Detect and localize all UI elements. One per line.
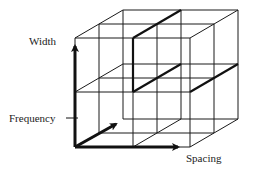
axes bbox=[75, 46, 178, 147]
parameter-cube-diagram: Width Frequency Spacing bbox=[0, 0, 253, 173]
spacing-label: Spacing bbox=[186, 152, 222, 164]
width-label: Width bbox=[29, 35, 57, 47]
frequency-label: Frequency bbox=[9, 112, 56, 124]
frequency-axis-arrow bbox=[75, 124, 116, 147]
highlighted-edges bbox=[133, 10, 238, 92]
cube-grid bbox=[75, 10, 238, 147]
